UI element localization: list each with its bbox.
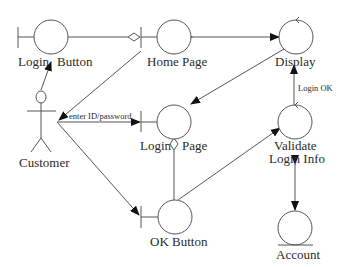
actor-head-icon	[36, 91, 46, 103]
control-icon	[278, 105, 312, 139]
control-icon	[279, 20, 313, 54]
edge-label-enter-credentials: enter ID/password	[69, 111, 132, 121]
link-loginbutton-homepage	[67, 33, 140, 41]
boundary-icon	[157, 20, 191, 54]
control-validate-login-info[interactable]: Validate Login Info	[269, 102, 325, 166]
link-loginpage-okbutton	[170, 138, 178, 200]
entity-account[interactable]: Account	[276, 211, 320, 262]
entity-icon	[278, 211, 312, 245]
control-display[interactable]: Display	[275, 17, 316, 69]
boundary-icon	[34, 20, 68, 54]
aggregation-diamond-icon	[128, 33, 140, 41]
robustness-diagram: enter ID/password Login OK Login Button	[0, 0, 342, 267]
aggregation-diamond-icon	[170, 138, 178, 150]
boundary-ok-button[interactable]: OK Button	[141, 200, 208, 249]
login-button-label-right: Button	[57, 54, 93, 69]
home-page-label: Home Page	[147, 54, 208, 69]
login-page-label-left: Login	[140, 138, 172, 153]
actor-customer[interactable]: Customer	[19, 91, 70, 170]
display-label: Display	[275, 54, 316, 69]
link-enter-credentials: enter ID/password	[57, 111, 140, 122]
boundary-login-button[interactable]: Login Button	[18, 20, 93, 69]
edge-label-login-ok: Login OK	[298, 83, 334, 93]
login-button-label-left: Login	[18, 54, 50, 69]
boundary-icon	[158, 200, 192, 234]
login-page-label-right: Page	[182, 138, 208, 153]
customer-label: Customer	[19, 155, 70, 170]
link-validate-display: Login OK	[294, 65, 334, 105]
validate-label-line2: Login Info	[269, 151, 325, 166]
boundary-icon	[157, 105, 191, 139]
account-label: Account	[276, 247, 320, 262]
boundary-home-page[interactable]: Home Page	[141, 20, 208, 69]
ok-button-label: OK Button	[150, 234, 208, 249]
